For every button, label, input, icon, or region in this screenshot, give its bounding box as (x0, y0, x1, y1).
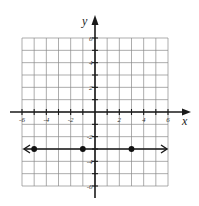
x-tick-label: -4 (43, 116, 49, 124)
data-point (80, 146, 86, 152)
x-tick-label: 6 (166, 116, 170, 124)
y-tick-label: 6 (89, 35, 93, 43)
y-axis-label: y (81, 14, 88, 28)
x-tick-label: 2 (118, 116, 122, 124)
y-tick-label: -6 (87, 183, 93, 191)
data-point (31, 146, 37, 152)
y-axis-arrow-icon (92, 15, 99, 25)
axes (10, 15, 191, 198)
y-tick-label: -2 (87, 133, 93, 141)
x-axis-label: x (181, 114, 188, 128)
x-tick-label: -2 (68, 116, 74, 124)
y-tick-label: 2 (89, 84, 93, 92)
x-tick-label: 4 (142, 116, 146, 124)
coordinate-plane: -6-4-2246642-2-4-6 x y (0, 0, 199, 206)
y-tick-label: -4 (87, 158, 93, 166)
data-point (129, 146, 135, 152)
x-tick-label: -6 (19, 116, 25, 124)
y-tick-label: 4 (89, 59, 93, 67)
